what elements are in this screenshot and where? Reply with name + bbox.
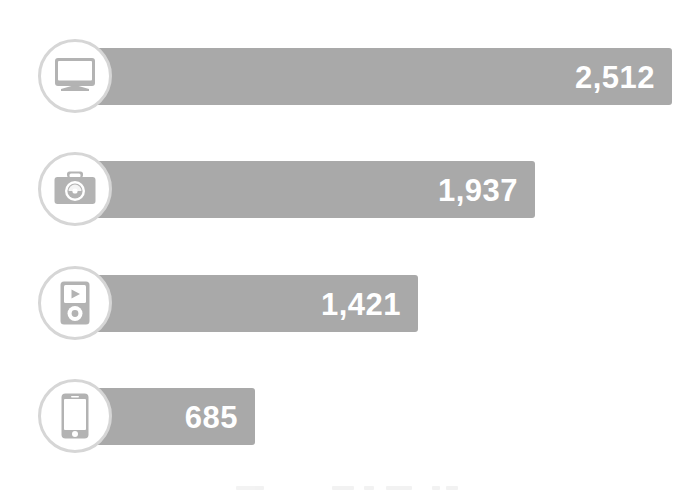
- desktop-monitor-icon: [54, 57, 96, 95]
- bar-track-media-player: 1,421: [72, 275, 418, 332]
- icon-badge-media-player: [38, 266, 112, 340]
- bar-value-label: 685: [185, 401, 238, 432]
- icon-badge-desktop: [38, 39, 112, 113]
- bar-row: 1,937: [0, 142, 692, 228]
- media-player-icon: [60, 281, 90, 325]
- footer-artifact: [236, 484, 466, 491]
- bar-row: 685: [0, 369, 692, 455]
- bar-row: 1,421: [0, 256, 692, 342]
- bar-track-camera: 1,937: [72, 161, 535, 218]
- icon-badge-smartphone: [38, 379, 112, 453]
- camera-icon: [54, 171, 96, 207]
- bar-value-label: 1,421: [321, 288, 401, 319]
- bar-row: 2,512: [0, 29, 692, 115]
- bar-value-label: 2,512: [575, 61, 655, 92]
- icon-badge-camera: [38, 152, 112, 226]
- bar-value-label: 1,937: [438, 174, 518, 205]
- horizontal-bar-chart: 2,512 1,937: [0, 0, 692, 494]
- smartphone-icon: [61, 393, 89, 439]
- bar-track-desktop: 2,512: [72, 48, 672, 105]
